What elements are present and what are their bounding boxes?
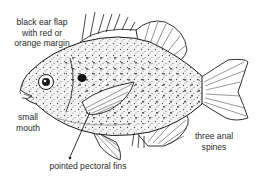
mouth-label-line2: mouth [8,123,48,134]
ear-flap [78,74,87,82]
ear-flap-label-line1: black ear flap [6,17,78,28]
eye [39,75,54,90]
caudal-fin [200,59,248,120]
anal-spines-label: three anal spines [186,131,242,152]
anal-spines-label-line1: three anal [186,131,242,142]
ear-flap-label-line2: with red or [6,28,78,39]
anal-spines-label-line2: spines [186,142,242,153]
mouth-label-line1: small [8,112,48,123]
ear-flap-label: black ear flap with red or orange margin [6,17,78,49]
pectoral-fins-label-text: pointed pectoral fins [40,161,136,172]
mouth-label: small mouth [8,112,48,133]
ear-flap-label-line3: orange margin [6,38,78,49]
pectoral-fins-label: pointed pectoral fins [40,161,136,172]
fish-diagram: black ear flap with red or orange margin… [0,0,259,182]
